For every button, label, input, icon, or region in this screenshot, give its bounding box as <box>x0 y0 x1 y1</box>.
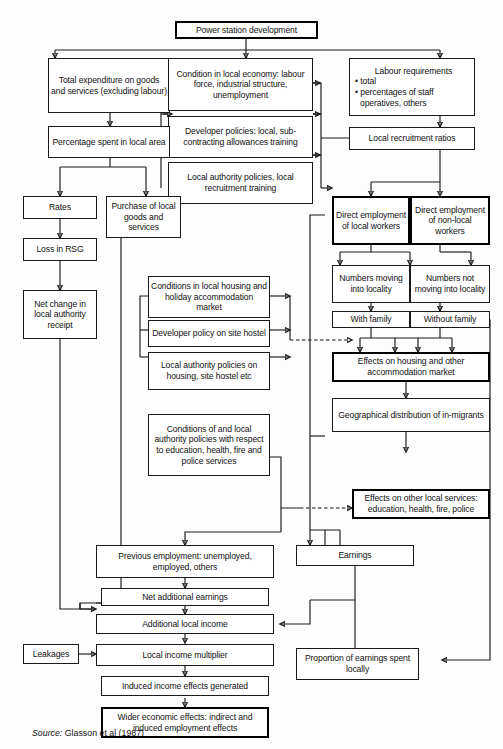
node-label: Condition in local economy: labour force… <box>171 69 310 101</box>
node-label: Local authority policies on housing, sit… <box>151 360 267 381</box>
node-label: Direct employment of non-local workers <box>414 205 486 237</box>
node-effects-other-local-services[interactable]: Effects on other local services: educati… <box>352 489 490 519</box>
source-caption: Source: Glasson et al (1987) <box>32 728 144 738</box>
node-labour-requirements[interactable]: Labour requirements • total • percentage… <box>349 58 475 116</box>
node-label: Earnings <box>299 550 411 561</box>
node-local-authority-policies-recruitment[interactable]: Local authority policies, local recruitm… <box>168 162 313 204</box>
node-label: Net additional earnings <box>104 592 266 603</box>
node-developer-policy-site-hostel[interactable]: Developer policy on site hostel <box>148 320 270 347</box>
node-direct-employment-non-local-workers[interactable]: Direct employment of non-local workers <box>410 196 490 245</box>
node-numbers-moving-into-locality[interactable]: Numbers moving into locality <box>332 265 410 303</box>
node-label: Effects on other local services: educati… <box>356 493 486 514</box>
node-purchase-local-goods[interactable]: Purchase of local goods and services <box>106 196 181 238</box>
node-label: Geographical distribution of in-migrants <box>335 410 487 421</box>
node-condition-local-economy[interactable]: Condition in local economy: labour force… <box>168 58 313 111</box>
node-previous-employment[interactable]: Previous employment: unemployed, employe… <box>96 545 274 578</box>
node-with-family[interactable]: With family <box>332 311 410 328</box>
node-label: Previous employment: unemployed, employe… <box>99 551 271 572</box>
node-label: Conditions of and local authority polici… <box>151 424 267 466</box>
node-label: With family <box>335 314 407 325</box>
node-la-policies-housing-site-hostel[interactable]: Local authority policies on housing, sit… <box>148 352 270 390</box>
node-rates[interactable]: Rates <box>23 196 97 219</box>
node-label: Numbers not moving into locality <box>413 273 487 294</box>
node-label: Rates <box>26 202 94 213</box>
node-label: Effects on housing and other accommodati… <box>336 356 486 377</box>
node-conditions-education-health-fire-police[interactable]: Conditions of and local authority polici… <box>148 414 270 476</box>
page-top-cutoff-text <box>0 0 503 9</box>
node-direct-employment-local-workers[interactable]: Direct employment of local workers <box>332 196 410 245</box>
node-label: Total expenditure on goods and services … <box>51 75 167 96</box>
node-local-recruitment-ratios[interactable]: Local recruitment ratios <box>349 127 475 150</box>
node-net-additional-earnings[interactable]: Net additional earnings <box>101 588 269 606</box>
node-label: Developer policy on site hostel <box>151 328 267 339</box>
node-label: Conditions in local housing and holiday … <box>151 281 267 313</box>
node-percentage-spent-local-area[interactable]: Percentage spent in local area <box>48 126 170 158</box>
node-label: Labour requirements <box>355 66 472 77</box>
source-text: Glasson et al (1987) <box>65 728 144 738</box>
node-label: Direct employment of local workers <box>336 210 406 231</box>
node-numbers-not-moving-into-locality[interactable]: Numbers not moving into locality <box>410 265 490 303</box>
node-additional-local-income[interactable]: Additional local income <box>96 614 274 634</box>
node-local-income-multiplier[interactable]: Local income multiplier <box>96 644 274 666</box>
node-conditions-local-housing[interactable]: Conditions in local housing and holiday … <box>148 276 270 318</box>
node-earnings[interactable]: Earnings <box>296 545 414 566</box>
node-effects-housing-accommodation[interactable]: Effects on housing and other accommodati… <box>332 352 490 382</box>
node-geographical-distribution-in-migrants[interactable]: Geographical distribution of in-migrants <box>332 398 490 432</box>
node-developer-policies[interactable]: Developer policies: local, sub-contracti… <box>168 116 313 158</box>
node-leakages[interactable]: Leakages <box>23 644 79 664</box>
node-bullet-percentages: • percentages of staff <box>355 87 472 98</box>
node-label: Induced income effects generated <box>104 681 266 692</box>
node-power-station-development[interactable]: Power station development <box>175 21 318 39</box>
node-bullet-operatives: operatives, others <box>355 98 472 109</box>
node-label: Loss in RSG <box>26 244 94 255</box>
node-label: Local authority policies, local recruitm… <box>171 172 310 193</box>
node-label: Leakages <box>26 649 76 660</box>
node-label: Without family <box>413 314 487 325</box>
node-induced-income-effects[interactable]: Induced income effects generated <box>101 676 269 696</box>
node-label: Numbers moving into locality <box>335 273 407 294</box>
node-loss-in-rsg[interactable]: Loss in RSG <box>23 238 97 261</box>
node-label: Power station development <box>179 25 314 36</box>
node-without-family[interactable]: Without family <box>410 311 490 328</box>
node-label: Local income multiplier <box>99 650 271 661</box>
node-label: Developer policies: local, sub-contracti… <box>171 126 310 147</box>
node-label: Purchase of local goods and services <box>109 201 178 233</box>
node-proportion-earnings-spent-locally[interactable]: Proportion of earnings spent locally <box>296 648 419 680</box>
source-prefix: Source: <box>32 728 62 738</box>
node-label: Proportion of earnings spent locally <box>299 653 416 674</box>
node-label: Percentage spent in local area <box>51 137 167 148</box>
node-label: Additional local income <box>99 619 271 630</box>
node-bullet-total: • total <box>355 76 472 87</box>
node-total-expenditure[interactable]: Total expenditure on goods and services … <box>48 58 170 113</box>
flowchart-canvas: Power station development Total expendit… <box>0 0 503 749</box>
node-label: Local recruitment ratios <box>352 133 472 144</box>
node-label: Net change in local authority receipt <box>26 299 94 331</box>
node-net-change-local-authority-receipt[interactable]: Net change in local authority receipt <box>23 290 97 339</box>
